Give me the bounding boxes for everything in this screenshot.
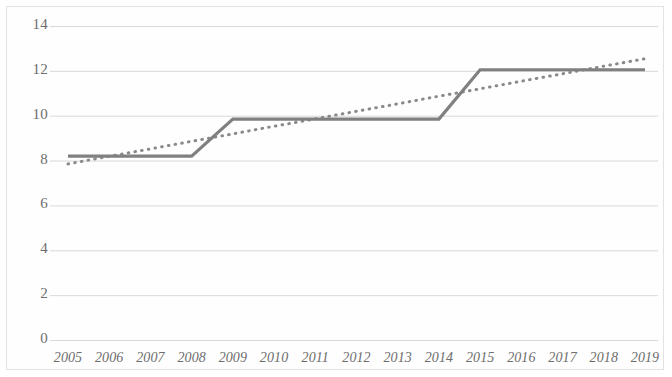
x-axis-tick-label: 2019 xyxy=(623,350,667,366)
x-axis-tick-label: 2005 xyxy=(46,350,90,366)
x-axis-tick-label: 2009 xyxy=(211,350,255,366)
axis-labels: 0246810121420052006200720082009201020112… xyxy=(0,0,672,377)
x-axis-tick-label: 2010 xyxy=(252,350,296,366)
x-axis-tick-label: 2008 xyxy=(170,350,214,366)
x-axis-tick-label: 2017 xyxy=(541,350,585,366)
x-axis-tick-label: 2012 xyxy=(335,350,379,366)
x-axis-tick-label: 2018 xyxy=(582,350,626,366)
y-axis-tick-label: 2 xyxy=(8,285,48,302)
x-axis-tick-label: 2007 xyxy=(128,350,172,366)
x-axis-tick-label: 2016 xyxy=(499,350,543,366)
y-axis-tick-label: 4 xyxy=(8,240,48,257)
y-axis-tick-label: 10 xyxy=(8,106,48,123)
y-axis-tick-label: 14 xyxy=(8,16,48,33)
line-chart: 0246810121420052006200720082009201020112… xyxy=(0,0,672,377)
x-axis-tick-label: 2014 xyxy=(417,350,461,366)
y-axis-tick-label: 12 xyxy=(8,61,48,78)
y-axis-tick-label: 8 xyxy=(8,151,48,168)
x-axis-tick-label: 2006 xyxy=(87,350,131,366)
y-axis-tick-label: 0 xyxy=(8,330,48,347)
x-axis-tick-label: 2011 xyxy=(293,350,337,366)
y-axis-tick-label: 6 xyxy=(8,195,48,212)
x-axis-tick-label: 2013 xyxy=(376,350,420,366)
x-axis-tick-label: 2015 xyxy=(458,350,502,366)
